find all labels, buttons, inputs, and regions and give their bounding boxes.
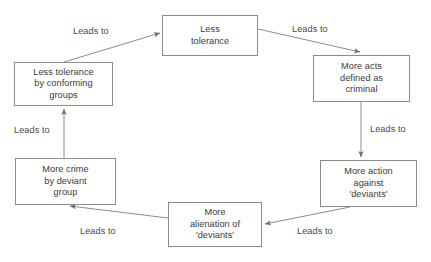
node-more-action-label: More action against 'deviants' (341, 166, 396, 201)
node-more-alienation-of-deviants: More alienation of 'deviants' (168, 202, 262, 247)
node-less-tolerance: Less tolerance (162, 15, 258, 56)
node-more-acts-label: More acts defined as criminal (337, 61, 386, 96)
edge-label-less-to-acts: Leads to (292, 24, 328, 35)
node-more-alienation-label: More alienation of 'deviants' (187, 207, 243, 242)
edge-alien-to-crime (70, 206, 168, 218)
node-more-acts-defined-as-criminal: More acts defined as criminal (313, 55, 410, 102)
node-more-crime-label: More crime by deviant group (39, 164, 91, 199)
edge-label-action-to-alien: Leads to (297, 226, 333, 237)
deviancy-amplification-cycle-diagram: Less tolerance More acts defined as crim… (0, 0, 431, 262)
edge-label-conf-to-less: Leads to (73, 26, 109, 37)
node-less-tolerance-conf-label: Less tolerance by conforming groups (30, 67, 96, 102)
node-less-tolerance-by-conforming-groups: Less tolerance by conforming groups (14, 62, 113, 106)
node-more-crime-by-deviant-group: More crime by deviant group (15, 158, 116, 205)
edge-label-crime-to-conf: Leads to (14, 125, 50, 136)
node-less-tolerance-label: Less tolerance (188, 24, 232, 47)
node-more-action-against-deviants: More action against 'deviants' (320, 160, 417, 207)
edge-action-to-alien (265, 207, 350, 224)
edge-label-acts-to-action: Leads to (370, 124, 406, 135)
edge-conf-to-less (64, 33, 160, 62)
edge-label-alien-to-crime: Leads to (80, 226, 116, 237)
